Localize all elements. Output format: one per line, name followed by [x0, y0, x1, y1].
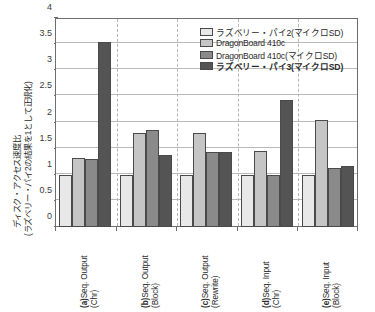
- legend-swatch-icon: [200, 62, 213, 70]
- legend-swatch-icon: [200, 51, 213, 59]
- bar: [98, 42, 111, 227]
- bar: [159, 155, 172, 227]
- bar-group: [116, 18, 177, 227]
- x-axis-labels: (a)Seq. Output(Chr)(b)Seq. Output(Block)…: [55, 232, 358, 312]
- legend-label: ラズベリー・パイ2(マイクロSD): [216, 26, 343, 38]
- y-tick-label: 3.5: [30, 28, 52, 38]
- y-tick-label: 0.5: [30, 185, 52, 195]
- x-axis-label-line2: (Chr): [272, 290, 281, 308]
- x-tick-mark: [55, 227, 56, 231]
- x-axis-label-line1: (a)Seq. Output: [80, 256, 89, 308]
- bar: [85, 159, 98, 227]
- y-tick-label: 2: [30, 107, 52, 117]
- bar: [254, 151, 267, 227]
- x-axis-label-line1: (c)Seq. Output: [201, 256, 210, 308]
- x-axis-label: (b)Seq. Output(Block): [116, 232, 177, 310]
- bar: [180, 175, 193, 227]
- legend-label: DragonBoard 410c: [216, 38, 285, 48]
- y-tick-label: 1: [30, 159, 52, 169]
- bar-group: [55, 18, 116, 227]
- y-tick-label: 2.5: [30, 80, 52, 90]
- y-tick-label: 1.5: [30, 133, 52, 143]
- bar: [120, 175, 133, 227]
- x-tick-mark: [237, 227, 238, 231]
- legend: ラズベリー・パイ2(マイクロSD)DragonBoard 410cDragonB…: [200, 26, 358, 72]
- x-tick-mark: [176, 227, 177, 231]
- legend-item: DragonBoard 410c(マイクロSD): [200, 49, 358, 61]
- legend-item: ラズベリー・パイ2(マイクロSD): [200, 26, 358, 38]
- bar: [72, 158, 85, 227]
- bar: [328, 168, 341, 227]
- bar: [193, 133, 206, 227]
- legend-label: ラズベリー・パイ3(マイクロSD): [216, 60, 343, 72]
- bar: [341, 166, 354, 227]
- x-axis-label: (a)Seq. Output(Chr): [55, 232, 116, 310]
- x-axis-label-line1: (e)Seq. Input: [322, 262, 331, 308]
- x-axis-label-line2: (Rewrite): [211, 276, 220, 308]
- y-axis-ticks: 00.511.522.533.54: [26, 18, 52, 227]
- x-axis-label-line1: (d)Seq. Input: [262, 262, 271, 308]
- legend-swatch-icon: [200, 28, 213, 36]
- bar: [315, 120, 328, 227]
- y-tick-label: 3: [30, 54, 52, 64]
- y-axis-title-line1: ディスク・アクセス速度比: [12, 135, 23, 228]
- y-tick-label: 0: [30, 211, 52, 221]
- x-axis-label: (d)Seq. Input(Chr): [237, 232, 298, 310]
- bar: [280, 100, 293, 227]
- bar-chart-figure: ディスク・アクセス速度比 (ラズベリー・パイ2の結果を1として正規化) 00.5…: [0, 0, 375, 312]
- y-tick-label: 4: [30, 2, 52, 12]
- bar: [302, 175, 315, 227]
- bar: [206, 152, 219, 227]
- x-tick-mark: [357, 227, 358, 231]
- x-axis-label-line2: (Block): [151, 283, 160, 308]
- x-tick-mark: [116, 227, 117, 231]
- bar: [241, 175, 254, 227]
- legend-label: DragonBoard 410c(マイクロSD): [216, 49, 337, 61]
- legend-swatch-icon: [200, 39, 213, 47]
- legend-item: ラズベリー・パイ3(マイクロSD): [200, 61, 358, 73]
- x-axis-label-line1: (b)Seq. Output: [141, 255, 150, 308]
- x-axis-label: (e)Seq. Input(Block): [297, 232, 358, 310]
- bar: [146, 130, 159, 227]
- x-axis-label-line2: (Block): [332, 283, 341, 308]
- bar: [133, 133, 146, 227]
- x-tick-mark: [297, 227, 298, 231]
- legend-item: DragonBoard 410c: [200, 38, 358, 50]
- x-axis-label: (c)Seq. Output(Rewrite): [176, 232, 237, 310]
- bar: [59, 175, 72, 227]
- bar: [219, 152, 232, 227]
- bar: [267, 175, 280, 227]
- x-axis-label-line2: (Chr): [90, 290, 99, 308]
